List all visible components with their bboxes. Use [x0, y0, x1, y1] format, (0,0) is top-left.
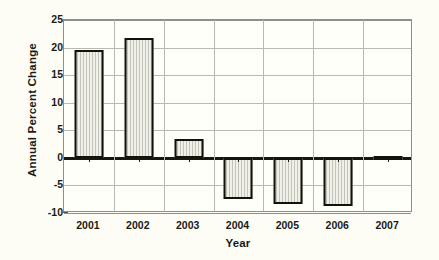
- y-tick-label: 20: [27, 41, 63, 53]
- bar-slot: [263, 20, 313, 211]
- bar-slot: [363, 20, 413, 211]
- x-tick-mark: [189, 158, 190, 162]
- plot-area: [63, 19, 412, 212]
- x-tick-label: 2001: [63, 215, 113, 235]
- y-tick-label: 10: [27, 96, 63, 108]
- bar-slot: [164, 20, 214, 211]
- y-tick-label: 15: [27, 68, 63, 80]
- x-axis-title: Year: [63, 237, 413, 249]
- bar-slot: [313, 20, 363, 211]
- x-tick-label: 2004: [213, 215, 263, 235]
- y-tick-label: -10: [27, 206, 63, 218]
- x-tick-label: 2006: [312, 215, 362, 235]
- x-tick-label: 2005: [262, 215, 312, 235]
- y-tick-label: 5: [27, 123, 63, 135]
- bar[interactable]: [74, 50, 103, 158]
- y-tick-label: -5: [27, 178, 63, 190]
- bar[interactable]: [224, 158, 253, 199]
- bars-layer: [64, 20, 411, 211]
- x-tick-mark: [288, 158, 289, 162]
- x-tick-mark: [338, 158, 339, 162]
- bar-slot: [214, 20, 264, 211]
- bar[interactable]: [124, 38, 153, 158]
- bar[interactable]: [324, 158, 353, 207]
- x-tick-mark: [388, 158, 389, 162]
- y-tick-label: 0: [27, 151, 63, 163]
- x-tick-label: 2002: [113, 215, 163, 235]
- bar-chart: Annual Percent Change 2520151050-5-10 20…: [0, 0, 439, 260]
- y-axis-tick-labels: 2520151050-5-10: [20, 19, 63, 212]
- x-tick-mark: [89, 158, 90, 162]
- x-tick-mark: [238, 158, 239, 162]
- x-tick-label: 2007: [362, 215, 412, 235]
- x-axis-tick-labels: 2001200220032004200520062007: [63, 215, 412, 235]
- bar[interactable]: [174, 139, 203, 158]
- x-tick-label: 2003: [163, 215, 213, 235]
- bar[interactable]: [274, 158, 303, 204]
- bar-slot: [114, 20, 164, 211]
- gridline: [64, 213, 411, 214]
- y-tick-label: 25: [27, 13, 63, 25]
- bar-slot: [64, 20, 114, 211]
- x-tick-mark: [139, 158, 140, 162]
